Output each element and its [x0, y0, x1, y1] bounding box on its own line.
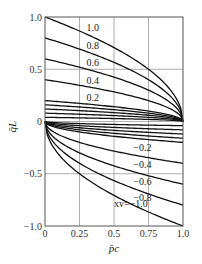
y-tick-label: 1.0 — [30, 12, 43, 23]
x-axis-label: p̄c — [108, 242, 120, 254]
curve-label: 0.4 — [86, 75, 99, 86]
x-tick-label: 0 — [43, 228, 48, 239]
curve-label: 0.8 — [86, 40, 99, 51]
curve-label: −0.6 — [133, 176, 151, 187]
curve-label: 1.0 — [86, 22, 99, 33]
x-tick-label: 0.25 — [71, 228, 89, 239]
curve-label: 0.2 — [86, 92, 99, 103]
grid — [45, 17, 183, 226]
y-tick-label: −0.5 — [24, 168, 42, 179]
x-tick-label: 1.0 — [177, 228, 190, 239]
y-tick-labels: 1.00.50−0.5−1.0 — [24, 12, 42, 232]
y-tick-label: 0 — [37, 116, 42, 127]
curve-label: −0.4 — [133, 159, 151, 170]
y-axis-label: q̄L — [6, 121, 18, 133]
x-tick-label: 0.75 — [140, 228, 158, 239]
chart: 00.250.50.751.0 1.00.50−0.5−1.0 1.00.80.… — [0, 0, 202, 264]
y-tick-label: 0.5 — [30, 64, 43, 75]
x-tick-label: 0.5 — [108, 228, 121, 239]
y-tick-label: −1.0 — [24, 221, 42, 232]
curve-label: −0.2 — [133, 142, 151, 153]
x-tick-labels: 00.250.50.751.0 — [43, 228, 190, 239]
curve-label: 0.6 — [86, 57, 99, 68]
curve-label: xv=−1.0 — [114, 198, 148, 209]
